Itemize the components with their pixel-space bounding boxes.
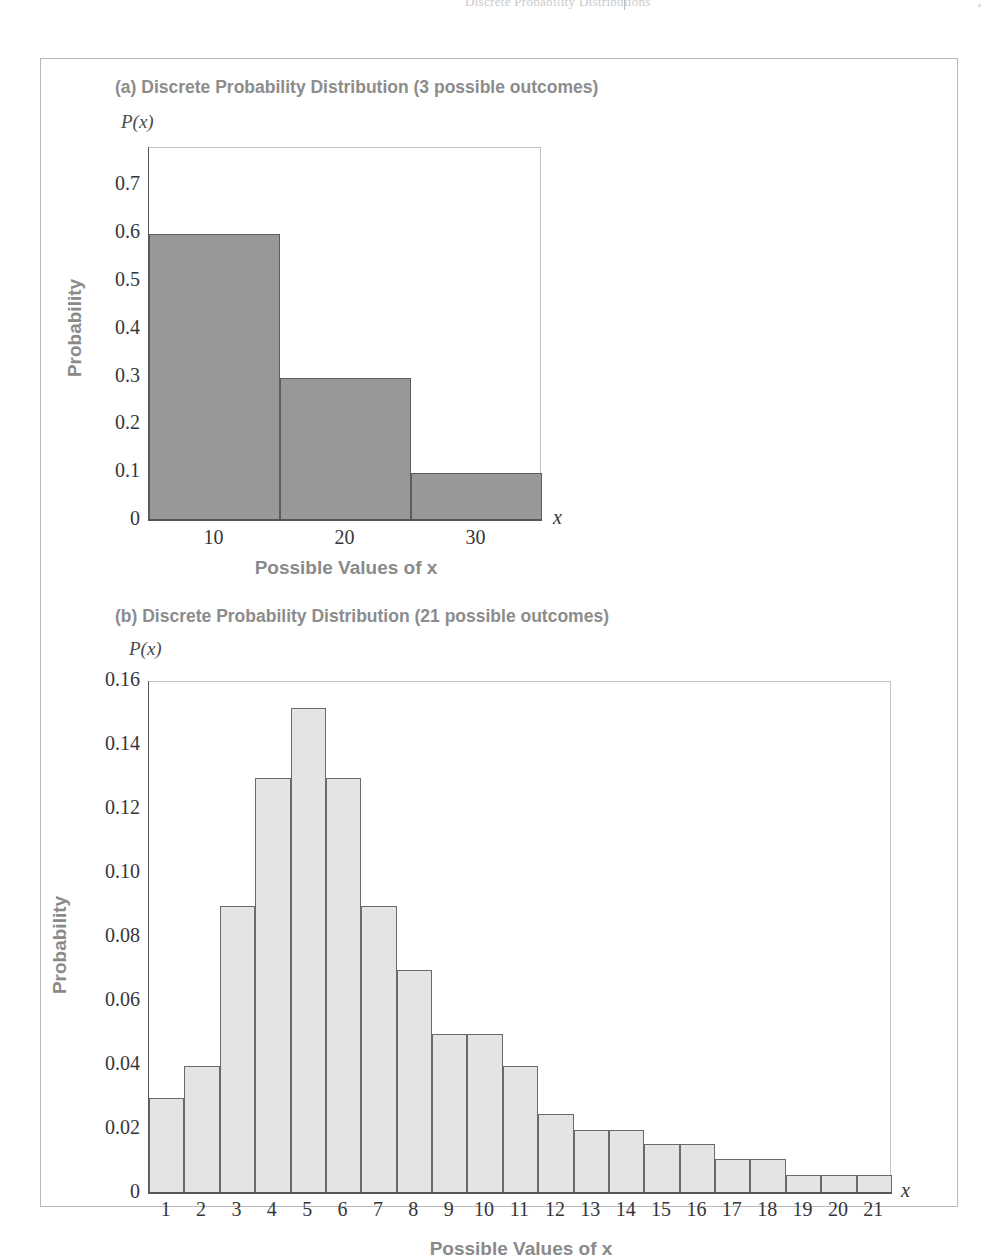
page-header-divider	[624, 0, 625, 10]
bar	[432, 1034, 467, 1194]
panel-b-y-axis-name: P(x)	[129, 638, 162, 660]
y-tick-label: 0.7	[74, 172, 140, 195]
bar	[361, 906, 396, 1194]
y-tick-label: 0.10	[74, 860, 140, 883]
y-tick-label: 0.6	[74, 220, 140, 243]
y-tick-label: 0	[74, 1180, 140, 1203]
panel-b: (b) Discrete Probability Distribution (2…	[41, 604, 959, 1208]
panel-b-x-axis-line	[148, 1192, 892, 1194]
y-tick-label: 0.2	[74, 411, 140, 434]
panel-a-x-axis-var: x	[553, 506, 562, 529]
y-tick-label: 0.02	[74, 1116, 140, 1139]
panel-a-x-axis-label: Possible Values of x	[181, 557, 511, 579]
bar	[255, 778, 290, 1194]
panel-a-bars	[149, 148, 542, 521]
y-tick-label: 0.06	[74, 988, 140, 1011]
bar	[680, 1144, 715, 1194]
bar	[220, 906, 255, 1194]
y-tick-label: 0.1	[74, 459, 140, 482]
panel-a-y-axis-name: P(x)	[121, 111, 154, 133]
bar	[411, 473, 542, 521]
bar	[280, 378, 411, 521]
bar	[715, 1159, 750, 1194]
page-corner-mark-icon	[978, 4, 981, 7]
panel-a-x-axis-line	[148, 519, 542, 521]
panel-b-bars	[149, 682, 892, 1194]
bar	[291, 708, 326, 1194]
bar	[609, 1130, 644, 1194]
page-header-text: Discrete Probability Distributions	[465, 0, 651, 10]
bar	[184, 1066, 219, 1194]
bar	[574, 1130, 609, 1194]
x-tick-label: 30	[450, 526, 502, 549]
y-tick-label: 0.14	[74, 732, 140, 755]
y-tick-label: 0.08	[74, 924, 140, 947]
y-tick-label: 0	[74, 507, 140, 530]
x-tick-label: 21	[847, 1198, 899, 1221]
bar	[326, 778, 361, 1194]
y-tick-label: 0.16	[74, 668, 140, 691]
panel-a-y-axis-line	[148, 147, 149, 521]
bar	[149, 234, 280, 521]
bar	[397, 970, 432, 1194]
y-tick-label: 0.04	[74, 1052, 140, 1075]
bar	[750, 1159, 785, 1194]
panel-b-title: (b) Discrete Probability Distribution (2…	[115, 606, 609, 627]
bar	[149, 1098, 184, 1194]
panel-b-x-axis-label: Possible Values of x	[356, 1238, 686, 1259]
panel-a: (a) Discrete Probability Distribution (3…	[41, 59, 959, 604]
panel-a-plot-area	[148, 147, 541, 520]
page-header: Discrete Probability Distributions	[0, 0, 999, 16]
panel-b-y-axis-label: Probability	[49, 880, 71, 1010]
x-tick-label: 20	[319, 526, 371, 549]
bar	[538, 1114, 573, 1194]
panel-a-title: (a) Discrete Probability Distribution (3…	[115, 77, 598, 98]
panel-a-y-axis-label: Probability	[64, 263, 86, 393]
panel-b-plot-area	[148, 681, 891, 1193]
figure-frame: (a) Discrete Probability Distribution (3…	[40, 58, 958, 1207]
x-tick-label: 10	[188, 526, 240, 549]
panel-b-x-axis-var: x	[901, 1179, 910, 1202]
bar	[467, 1034, 502, 1194]
panel-b-y-axis-line	[148, 681, 149, 1194]
y-tick-label: 0.12	[74, 796, 140, 819]
bar	[503, 1066, 538, 1194]
bar	[644, 1144, 679, 1194]
